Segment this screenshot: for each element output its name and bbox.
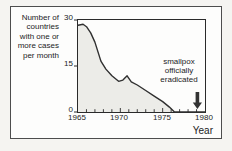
y-axis-title-line: countries bbox=[15, 22, 59, 31]
y-axis-title-line: more cases bbox=[15, 41, 59, 50]
eradication-arrow-icon bbox=[193, 92, 202, 109]
y-tick-label: 30 bbox=[49, 13, 73, 23]
x-tick-label: 1970 bbox=[105, 113, 133, 123]
eradication-annotation: smallpox officially eradicated bbox=[155, 58, 203, 84]
x-tick-label: 1975 bbox=[148, 113, 176, 123]
x-tick-label: 1980 bbox=[190, 113, 218, 123]
page-background: Number of countries with one or more cas… bbox=[0, 0, 232, 151]
plot-area: smallpox officially eradicated bbox=[77, 19, 206, 113]
x-axis-title: Year bbox=[193, 125, 213, 136]
figure-frame: Number of countries with one or more cas… bbox=[10, 6, 222, 139]
annotation-line: eradicated bbox=[155, 76, 203, 85]
x-tick-label: 1965 bbox=[63, 113, 91, 123]
y-tick-label: 15 bbox=[49, 59, 73, 69]
y-axis-title-line: with one or bbox=[15, 32, 59, 41]
